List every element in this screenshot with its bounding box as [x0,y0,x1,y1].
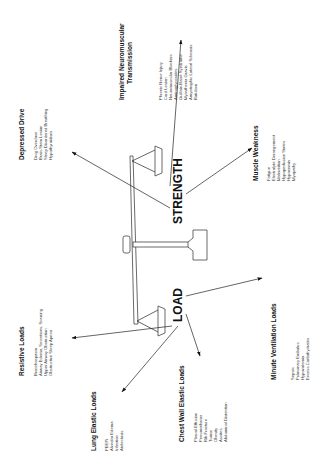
muscle-weakness-group: Muscle Weakness Fatigue Electrolyte Dera… [252,125,296,181]
list-item: Botulism [193,83,198,100]
impaired-neuromuscular-title: Impaired Neuromuscular [118,23,126,100]
arrow-to-chest-wall-loads [186,314,200,356]
load-label: LOAD [171,288,185,322]
impaired-neuromuscular-title-line2: Transmission [126,42,133,84]
chest-wall-loads-title: Chest Wall Elastic Loads [178,365,185,442]
minute-ventilation-loads-title: Minute Ventilation Loads [270,303,277,380]
muscle-weakness-title: Muscle Weakness [252,125,259,181]
strength-load-diagram: STRENGTH LOAD Depressed Drive Drug Overd… [0,0,336,456]
balance-scale-icon [123,146,207,336]
list-item: Obstructive Sleep Apnea [48,329,53,376]
minute-ventilation-loads-group: Minute Ventilation Loads Sepsis Pulmonar… [270,303,310,380]
arrow-to-lung-elastic-loads [122,326,178,392]
depressed-drive-group: Depressed Drive Drug Overdose Brain-Stem… [18,108,53,160]
list-item: Abdominal Distention [223,402,228,442]
impaired-neuromuscular-group: Impaired Neuromuscular Transmission Phre… [118,23,198,100]
list-item: Hypothyroidism [48,131,53,160]
lung-elastic-loads-group: Lung Elastic Loads PEEPi Alveolar Edema … [90,391,124,451]
arrow-to-resistive-loads [72,326,172,338]
chest-wall-loads-group: Chest Wall Elastic Loads Pleural Effusio… [178,365,228,442]
lung-elastic-loads-title: Lung Elastic Loads [90,391,98,451]
resistive-loads-group: Resistive Loads Bronchospasm Airway Edem… [18,308,53,376]
arrow-to-minute-ventilation-loads [186,278,262,296]
resistive-loads-title: Resistive Loads [18,326,25,376]
strength-label: STRENGTH [171,158,185,224]
arrow-to-muscle-weakness [186,148,252,194]
depressed-drive-title: Depressed Drive [18,108,26,160]
list-item: Atelectasis [119,431,124,451]
list-item: Myopathy [291,162,296,181]
list-item: Excess Carbohydrates [305,338,310,380]
